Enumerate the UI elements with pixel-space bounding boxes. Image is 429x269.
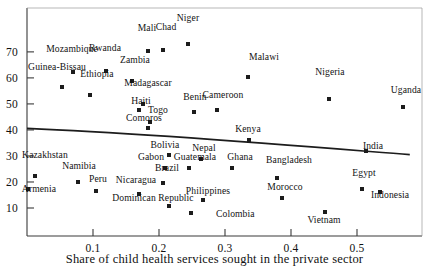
plot-canvas bbox=[0, 0, 429, 269]
data-point-label: Nicaragua bbox=[116, 175, 156, 185]
data-point-marker bbox=[88, 93, 92, 97]
data-point-marker bbox=[167, 204, 171, 208]
data-point-label: Ghana bbox=[227, 152, 253, 162]
data-point-marker bbox=[275, 176, 279, 180]
y-tick-label: 30 bbox=[0, 150, 18, 162]
data-point-marker bbox=[247, 138, 251, 142]
data-point-label: Zambia bbox=[120, 55, 150, 65]
data-point-label: Brazil bbox=[155, 163, 179, 173]
data-point-label: Nigeria bbox=[315, 67, 344, 77]
data-point-label: Egypt bbox=[352, 168, 375, 178]
data-point-marker bbox=[94, 189, 98, 193]
data-point-label: Uganda bbox=[391, 85, 421, 95]
data-point-label: Guinea-Bissau bbox=[28, 62, 86, 72]
trend-line bbox=[27, 128, 410, 154]
y-tick-label: 50 bbox=[0, 98, 18, 110]
data-point-marker bbox=[76, 180, 80, 184]
data-point-label: Gabon bbox=[138, 152, 164, 162]
data-point-marker bbox=[192, 110, 196, 114]
data-point-marker bbox=[161, 48, 165, 52]
data-point-label: Chad bbox=[156, 22, 177, 32]
data-point-marker bbox=[189, 211, 193, 215]
data-point-marker bbox=[215, 108, 219, 112]
data-point-label: Morocco bbox=[267, 182, 302, 192]
data-point-label: Philippines bbox=[186, 186, 230, 196]
data-point-marker bbox=[33, 174, 37, 178]
data-point-marker bbox=[161, 181, 165, 185]
y-tick-label: 60 bbox=[0, 72, 18, 84]
scatter-plot-figure: NigerMaliChadRwandaMozambiqueZambiaGuine… bbox=[0, 0, 429, 269]
data-point-label: Dominican Republic bbox=[112, 193, 193, 203]
data-point-label: India bbox=[363, 141, 383, 151]
data-point-label: Indonesia bbox=[371, 190, 409, 200]
data-point-marker bbox=[187, 166, 191, 170]
data-point-marker bbox=[146, 126, 150, 130]
data-point-label: Namibia bbox=[62, 161, 96, 171]
data-point-label: Armenia bbox=[22, 184, 56, 194]
data-point-marker bbox=[146, 49, 150, 53]
data-point-label: Peru bbox=[89, 174, 107, 184]
data-point-label: Malawi bbox=[249, 52, 279, 62]
y-tick-label: 20 bbox=[0, 176, 18, 188]
y-tick-label: 70 bbox=[0, 46, 18, 58]
data-point-marker bbox=[186, 42, 190, 46]
data-point-marker bbox=[201, 198, 205, 202]
data-point-marker bbox=[360, 187, 364, 191]
data-point-label: Nepal bbox=[192, 143, 215, 153]
data-point-label: Ethiopia bbox=[80, 69, 113, 79]
y-tick-label: 10 bbox=[0, 202, 18, 214]
data-point-marker bbox=[327, 97, 331, 101]
data-point-marker bbox=[246, 75, 250, 79]
y-tick-label: 40 bbox=[0, 124, 18, 136]
data-point-label: Colombia bbox=[216, 209, 255, 219]
data-point-label: Vietnam bbox=[307, 215, 340, 225]
data-point-label: Kazakhstan bbox=[22, 150, 68, 160]
data-point-label: Niger bbox=[177, 13, 199, 23]
data-point-label: Mozambique bbox=[46, 44, 98, 54]
data-point-marker bbox=[280, 196, 284, 200]
data-point-label: Comoros bbox=[126, 113, 162, 123]
data-point-label: Bolivia bbox=[151, 140, 180, 150]
data-point-marker bbox=[401, 105, 405, 109]
data-point-label: Cameroon bbox=[203, 90, 244, 100]
data-point-marker bbox=[230, 166, 234, 170]
data-point-marker bbox=[60, 85, 64, 89]
data-point-label: Mali bbox=[138, 23, 157, 33]
x-axis-title: Share of child health services sought in… bbox=[0, 252, 429, 267]
data-point-label: Madagascar bbox=[124, 78, 171, 88]
data-point-label: Kenya bbox=[235, 124, 261, 134]
data-point-label: Guatemala bbox=[174, 152, 216, 162]
data-point-marker bbox=[167, 153, 171, 157]
data-point-label: Bangladesh bbox=[266, 155, 312, 165]
fitted-trend-curve bbox=[27, 128, 410, 154]
